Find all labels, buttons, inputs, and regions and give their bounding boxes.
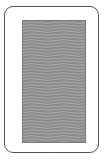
card-caption: · ·	[0, 156, 105, 162]
card-back-pattern	[22, 20, 86, 143]
wavy-lines-icon	[23, 21, 86, 143]
playing-card-back[interactable]	[4, 6, 99, 153]
